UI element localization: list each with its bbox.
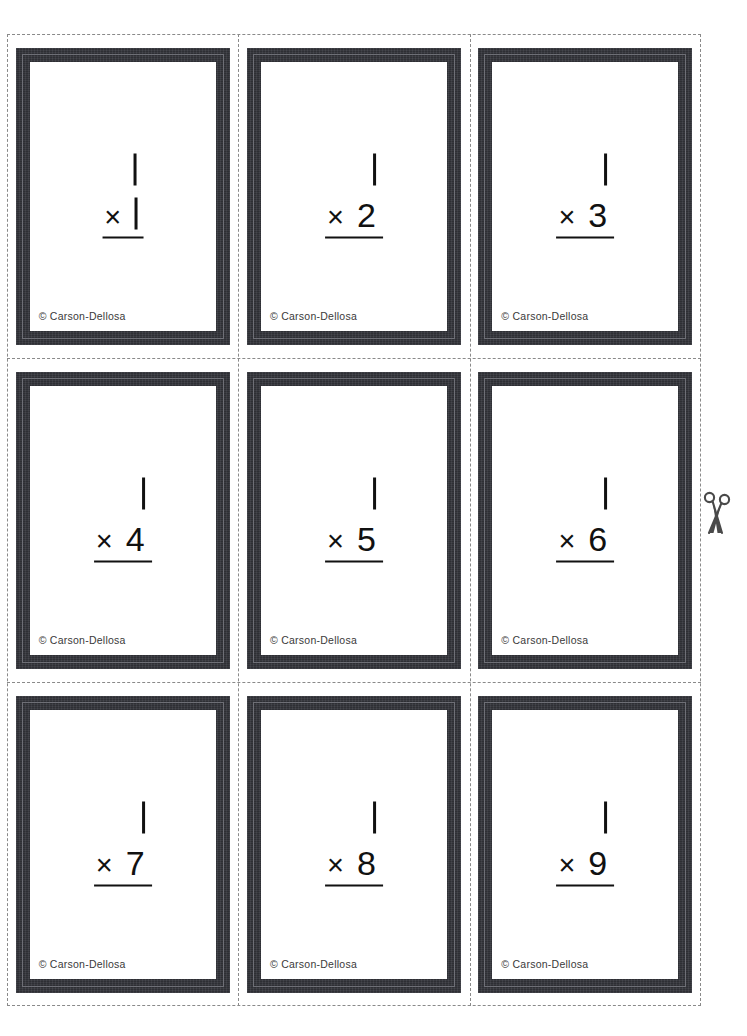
flash-card-cell: ×8© Carson-Dellosa bbox=[238, 682, 469, 1006]
digit-one-stroke bbox=[142, 802, 145, 834]
copyright-notice: © Carson-Dellosa bbox=[270, 958, 357, 970]
card-face: ×4© Carson-Dellosa bbox=[30, 386, 216, 655]
multiplication-operator: × bbox=[327, 851, 344, 880]
operator-and-multiplier: ×4 bbox=[94, 522, 152, 563]
multiplicand bbox=[142, 802, 152, 839]
multiplier: 9 bbox=[588, 846, 608, 880]
flash-card-cell: ×5© Carson-Dellosa bbox=[238, 358, 469, 682]
digit-one-stroke bbox=[142, 478, 145, 510]
flash-card-grid: ×© Carson-Dellosa×2© Carson-Dellosa×3© C… bbox=[7, 34, 701, 1006]
flash-card-cell: ×© Carson-Dellosa bbox=[7, 34, 238, 358]
multiplication-operator: × bbox=[558, 851, 575, 880]
multiplication-problem: ×3 bbox=[556, 154, 614, 239]
multiplication-problem: ×6 bbox=[556, 478, 614, 563]
operator-and-multiplier: ×2 bbox=[325, 198, 383, 239]
multiplicand bbox=[373, 478, 383, 515]
operator-and-multiplier: ×6 bbox=[556, 522, 614, 563]
multiplication-problem: ×9 bbox=[556, 802, 614, 887]
copyright-notice: © Carson-Dellosa bbox=[39, 310, 126, 322]
copyright-notice: © Carson-Dellosa bbox=[501, 310, 588, 322]
multiplier: 5 bbox=[357, 522, 377, 556]
card-face: ×5© Carson-Dellosa bbox=[261, 386, 447, 655]
multiplication-problem: ×8 bbox=[325, 802, 383, 887]
multiplicand bbox=[604, 802, 614, 839]
multiplicand bbox=[133, 154, 143, 191]
digit-one-stroke bbox=[133, 154, 136, 186]
flash-card[interactable]: ×7© Carson-Dellosa bbox=[16, 696, 230, 993]
copyright-notice: © Carson-Dellosa bbox=[270, 634, 357, 646]
multiplicand bbox=[604, 478, 614, 515]
multiplier: 6 bbox=[588, 522, 608, 556]
copyright-notice: © Carson-Dellosa bbox=[501, 958, 588, 970]
multiplier: 4 bbox=[126, 522, 146, 556]
multiplier: 3 bbox=[588, 198, 608, 232]
copyright-notice: © Carson-Dellosa bbox=[39, 958, 126, 970]
multiplicand bbox=[373, 154, 383, 191]
copyright-notice: © Carson-Dellosa bbox=[501, 634, 588, 646]
flash-card-cell: ×2© Carson-Dellosa bbox=[238, 34, 469, 358]
digit-one-stroke bbox=[134, 198, 137, 230]
multiplication-problem: ×4 bbox=[94, 478, 152, 563]
multiplication-problem: ×7 bbox=[94, 802, 152, 887]
multiplier: 2 bbox=[357, 198, 377, 232]
flash-card-cell: ×6© Carson-Dellosa bbox=[470, 358, 701, 682]
card-face: ×9© Carson-Dellosa bbox=[492, 710, 678, 979]
flash-card[interactable]: ×9© Carson-Dellosa bbox=[478, 696, 692, 993]
multiplicand bbox=[142, 478, 152, 515]
flash-card[interactable]: ×8© Carson-Dellosa bbox=[247, 696, 461, 993]
multiplication-problem: × bbox=[102, 154, 143, 239]
digit-one-stroke bbox=[604, 154, 607, 186]
flash-card-sheet: ×© Carson-Dellosa×2© Carson-Dellosa×3© C… bbox=[7, 34, 701, 1006]
multiplicand bbox=[373, 802, 383, 839]
flash-card[interactable]: ×© Carson-Dellosa bbox=[16, 48, 230, 345]
multiplication-operator: × bbox=[558, 527, 575, 556]
card-face: ×8© Carson-Dellosa bbox=[261, 710, 447, 979]
multiplication-operator: × bbox=[104, 203, 121, 232]
card-face: ×3© Carson-Dellosa bbox=[492, 62, 678, 331]
multiplier: 8 bbox=[357, 846, 377, 880]
digit-one-stroke bbox=[373, 802, 376, 834]
flash-card-cell: ×3© Carson-Dellosa bbox=[470, 34, 701, 358]
multiplication-operator: × bbox=[327, 203, 344, 232]
card-face: ×7© Carson-Dellosa bbox=[30, 710, 216, 979]
multiplication-problem: ×2 bbox=[325, 154, 383, 239]
operator-and-multiplier: ×9 bbox=[556, 846, 614, 887]
scissors-icon bbox=[700, 489, 734, 537]
flash-card-cell: ×9© Carson-Dellosa bbox=[470, 682, 701, 1006]
multiplier: 7 bbox=[126, 846, 146, 880]
operator-and-multiplier: × bbox=[102, 198, 143, 239]
operator-and-multiplier: ×5 bbox=[325, 522, 383, 563]
operator-and-multiplier: ×7 bbox=[94, 846, 152, 887]
flash-card-cell: ×4© Carson-Dellosa bbox=[7, 358, 238, 682]
flash-card-cell: ×7© Carson-Dellosa bbox=[7, 682, 238, 1006]
operator-and-multiplier: ×8 bbox=[325, 846, 383, 887]
multiplier bbox=[134, 198, 137, 232]
flash-card[interactable]: ×6© Carson-Dellosa bbox=[478, 372, 692, 669]
copyright-notice: © Carson-Dellosa bbox=[270, 310, 357, 322]
digit-one-stroke bbox=[373, 154, 376, 186]
digit-one-stroke bbox=[373, 478, 376, 510]
operator-and-multiplier: ×3 bbox=[556, 198, 614, 239]
flash-card[interactable]: ×4© Carson-Dellosa bbox=[16, 372, 230, 669]
multiplicand bbox=[604, 154, 614, 191]
digit-one-stroke bbox=[604, 802, 607, 834]
multiplication-problem: ×5 bbox=[325, 478, 383, 563]
multiplication-operator: × bbox=[96, 527, 113, 556]
flash-card[interactable]: ×5© Carson-Dellosa bbox=[247, 372, 461, 669]
digit-one-stroke bbox=[604, 478, 607, 510]
multiplication-operator: × bbox=[96, 851, 113, 880]
card-face: ×6© Carson-Dellosa bbox=[492, 386, 678, 655]
flash-card[interactable]: ×2© Carson-Dellosa bbox=[247, 48, 461, 345]
multiplication-operator: × bbox=[558, 203, 575, 232]
copyright-notice: © Carson-Dellosa bbox=[39, 634, 126, 646]
card-face: ×© Carson-Dellosa bbox=[30, 62, 216, 331]
card-face: ×2© Carson-Dellosa bbox=[261, 62, 447, 331]
multiplication-operator: × bbox=[327, 527, 344, 556]
flash-card[interactable]: ×3© Carson-Dellosa bbox=[478, 48, 692, 345]
